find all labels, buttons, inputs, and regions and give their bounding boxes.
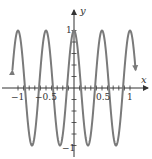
y-tick-label-neg1: −1: [62, 143, 75, 153]
y-axis-label: y: [79, 5, 86, 16]
y-tick-label-1: 1: [66, 25, 72, 35]
x-tick-label-neg1: −1: [11, 92, 24, 102]
x-tick-label-neg05: −0.5: [35, 92, 57, 102]
x-tick-label-1: 1: [127, 92, 133, 102]
x-tick-label-05: 0.5: [96, 92, 111, 102]
cosine-plot: x y −1 −0.5 0.5 1 1 −1: [0, 0, 152, 159]
x-axis-label: x: [141, 74, 147, 85]
